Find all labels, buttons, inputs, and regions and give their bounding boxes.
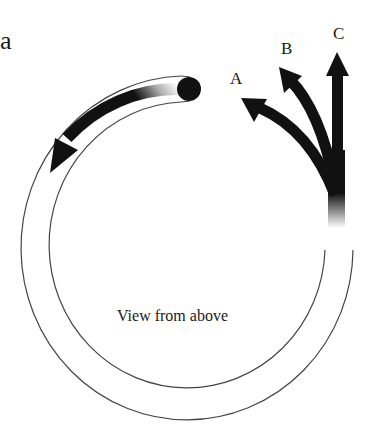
path-label-c: C xyxy=(333,25,344,42)
motion-arrow-head xyxy=(50,138,78,173)
circular-tube-diagram xyxy=(0,0,379,444)
path-label-a: A xyxy=(230,70,242,87)
tube-inner-wall xyxy=(49,102,325,388)
exit-paths xyxy=(241,52,349,228)
view-caption: View from above xyxy=(117,308,228,324)
tube-end-top xyxy=(181,76,190,77)
panel-label: a xyxy=(0,28,12,54)
tube-end-bottom xyxy=(181,101,190,102)
ball xyxy=(177,77,201,101)
motion-arrow xyxy=(50,89,180,173)
path-label-b: B xyxy=(281,40,292,57)
